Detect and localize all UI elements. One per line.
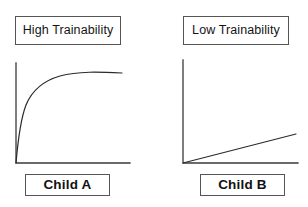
chart-axes-child-b [183,60,298,163]
figure-root: { "figure": { "title": "", "background_c… [0,0,308,207]
caption-label-box-child-a: Child A [25,174,110,196]
panel-high-trainability: High Trainability Child A [0,0,154,207]
panel-low-trainability: Low Trainability Child B [154,0,308,207]
chart-axes-child-a [16,63,130,163]
caption-label-text: Child B [218,178,267,192]
caption-label-text: Child A [43,178,91,192]
caption-label-box-child-b: Child B [200,174,285,196]
curve-child-b [183,134,296,163]
curve-child-a [16,72,122,163]
